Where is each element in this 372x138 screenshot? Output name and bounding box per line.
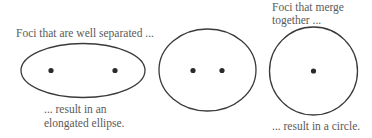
caption-result-line1: ... result in an	[44, 102, 107, 116]
caption-well-separated: Foci that are well separated ...	[16, 26, 154, 40]
focus-point-left	[190, 68, 195, 73]
merged-focus-point	[311, 68, 316, 73]
focus-point-right	[112, 68, 117, 73]
elongated-ellipse	[21, 44, 145, 98]
focus-point-right	[219, 68, 224, 73]
caption-result-line2: elongated ellipse.	[44, 116, 124, 130]
caption-circle-result: ... result in a circle.	[272, 119, 360, 133]
caption-merge-line2: together ...	[272, 13, 321, 27]
focus-point-left	[48, 68, 53, 73]
mild-ellipse	[159, 29, 256, 111]
caption-merge-line1: Foci that merge	[272, 0, 344, 14]
